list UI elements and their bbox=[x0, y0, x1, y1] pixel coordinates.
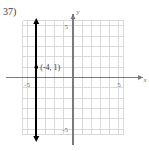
x-axis-tick-label-positive: 5 bbox=[117, 81, 121, 89]
y-axis-tick-label-negative: -5 bbox=[62, 126, 68, 134]
point-coordinate-label: (-4, 1) bbox=[40, 63, 60, 72]
plotted-line-series bbox=[33, 18, 39, 142]
y-axis-arrowhead bbox=[71, 14, 76, 19]
graph-svg: -5 5 5 -5 x y (-4, 1) bbox=[0, 0, 149, 151]
point-marker bbox=[34, 65, 38, 69]
plotted-point bbox=[34, 65, 38, 69]
axes bbox=[6, 14, 143, 145]
y-axis-name-label: y bbox=[75, 8, 80, 16]
y-axis-tick-label-positive: 5 bbox=[65, 23, 69, 31]
coordinate-plane-graph: -5 5 5 -5 x y (-4, 1) bbox=[0, 0, 149, 151]
x-axis-name-label: x bbox=[142, 76, 147, 84]
x-axis-arrowhead bbox=[138, 75, 143, 80]
series-arrowhead-bottom bbox=[33, 136, 39, 142]
x-axis-tick-label-negative: -5 bbox=[24, 81, 30, 89]
graph-problem-figure: 37) -5 5 5 -5 x y (-4, 1) bbox=[0, 0, 149, 151]
